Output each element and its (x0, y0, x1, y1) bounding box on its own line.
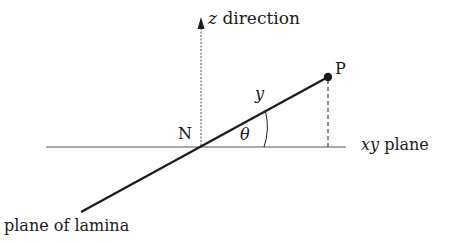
xy-plane-text: plane (384, 135, 429, 154)
point-p-dot (324, 73, 332, 81)
diagram-svg (0, 0, 450, 243)
angle-theta-label: θ (240, 127, 250, 143)
angle-arc (264, 112, 267, 148)
point-p-label: P (335, 61, 346, 77)
xy-var: xy (361, 135, 379, 154)
z-arrow-icon (198, 17, 205, 29)
z-direction-text: direction (222, 8, 299, 28)
z-var: z (208, 8, 217, 28)
distance-y-label: y (255, 86, 264, 102)
lamina-line (81, 77, 328, 212)
xy-plane-label: xy plane (361, 137, 429, 153)
z-direction-label: z direction (208, 10, 300, 27)
origin-n-label: N (178, 126, 192, 142)
diagram-canvas: z direction P y N θ xy plane plane of la… (0, 0, 450, 243)
lamina-label: plane of lamina (4, 218, 129, 234)
